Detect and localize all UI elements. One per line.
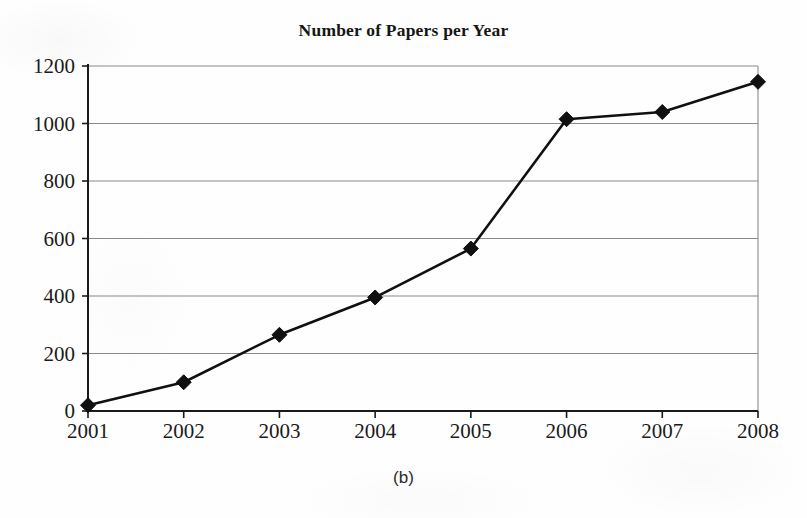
x-tick-labels: 20012002200320042005200620072008 [67, 419, 779, 443]
axes [88, 64, 758, 411]
y-tick-label-400: 400 [44, 284, 76, 308]
series-line [88, 82, 758, 405]
y-tick-label-800: 800 [44, 169, 76, 193]
x-tick-marks [88, 411, 758, 418]
x-tick-label-2003: 2003 [258, 419, 300, 443]
x-tick-label-2002: 2002 [163, 419, 205, 443]
figure-container: Number of Papers per Year 02004006008001… [0, 0, 807, 518]
y-tick-label-1200: 1200 [33, 54, 75, 78]
data-point-2003 [272, 327, 287, 342]
y-tick-labels: 020040060080010001200 [33, 54, 75, 423]
figure-caption: (b) [0, 468, 807, 488]
y-tick-label-1000: 1000 [33, 112, 75, 136]
line-chart-plot: 0200400600800100012002001200220032004200… [0, 0, 807, 460]
x-tick-label-2007: 2007 [641, 419, 683, 443]
x-tick-label-2005: 2005 [450, 419, 492, 443]
y-tick-label-200: 200 [44, 342, 76, 366]
data-point-2008 [751, 74, 766, 89]
data-point-2002 [176, 375, 191, 390]
data-point-2007 [655, 105, 670, 120]
x-tick-label-2004: 2004 [354, 419, 397, 443]
data-point-2004 [368, 290, 383, 305]
x-tick-label-2001: 2001 [67, 419, 109, 443]
series-group-number-of-papers [81, 74, 766, 412]
x-tick-label-2008: 2008 [737, 419, 779, 443]
x-tick-label-2006: 2006 [546, 419, 588, 443]
y-tick-label-600: 600 [44, 227, 76, 251]
